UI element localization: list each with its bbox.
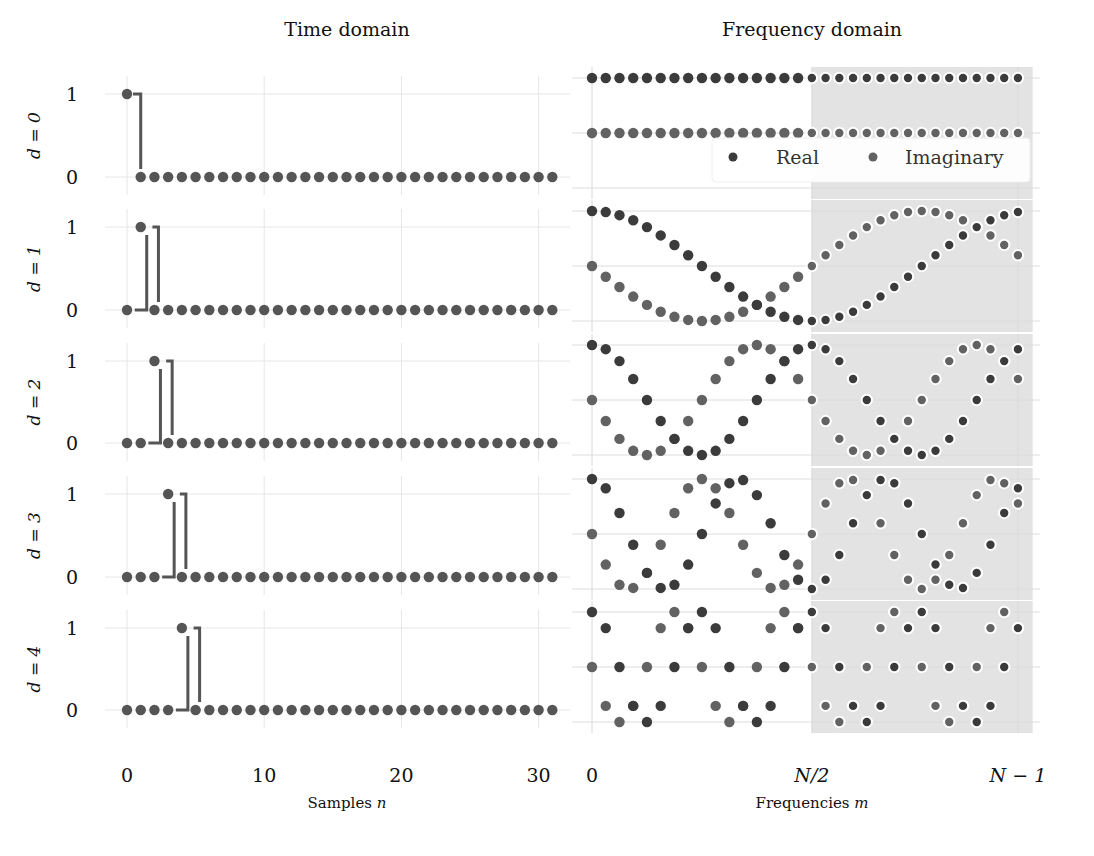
imaginary-point [985,128,995,138]
imaginary-point [587,128,597,138]
imaginary-point [958,128,968,138]
time-sample-marker [382,572,392,582]
imaginary-point [724,717,734,727]
imaginary-point [875,518,885,528]
real-point [779,356,789,366]
time-sample-marker [300,438,310,448]
real-point [944,662,954,672]
real-point [683,73,693,83]
time-sample-marker [424,172,434,182]
real-point [903,272,913,282]
real-point [875,73,885,83]
imaginary-point [807,662,817,672]
real-point [628,540,638,550]
imaginary-point [724,508,734,518]
imaginary-point [1013,250,1023,260]
imaginary-point [972,490,982,500]
real-point [972,568,982,578]
time-sample-marker [314,572,324,582]
time-sample-marker [218,705,228,715]
time-sample-marker [506,438,516,448]
imaginary-point [972,340,982,350]
imaginary-point [875,128,885,138]
time-sample-marker [533,705,543,715]
real-point [738,73,748,83]
y-tick-0: 0 [66,432,78,454]
imaginary-point [765,128,775,138]
imaginary-point [642,662,652,672]
real-point [710,272,720,282]
real-point [765,701,775,711]
real-point [944,580,954,590]
real-point [862,717,872,727]
real-point [862,73,872,83]
real-point [752,490,762,500]
real-point [958,583,968,593]
time-sample-marker [437,438,447,448]
time-sample-marker [355,438,365,448]
time-sample-marker [286,172,296,182]
real-legend-marker-icon [729,153,738,162]
imaginary-point [669,607,679,617]
time-sample-marker [355,705,365,715]
imaginary-point [820,128,830,138]
real-point [972,222,982,232]
real-point [738,416,748,426]
imaginary-point [697,662,707,672]
real-point [930,250,940,260]
imaginary-point [944,717,954,727]
imaginary-point [738,307,748,317]
imaginary-point [765,583,775,593]
time-sample-marker [122,89,132,99]
y-tick-1: 1 [66,350,78,372]
real-point [944,240,954,250]
time-sample-marker [451,305,461,315]
real-point [738,701,748,711]
time-sample-marker [355,172,365,182]
x-tick: N/2 [793,764,829,786]
imaginary-point [710,374,720,384]
imaginary-point [972,662,982,672]
real-point [683,559,693,569]
real-point [587,206,597,216]
time-sample-marker [190,572,200,582]
real-point [930,73,940,83]
imaginary-point [765,344,775,354]
time-sample-marker [328,172,338,182]
time-sample-marker [520,172,530,182]
imaginary-point [656,128,666,138]
real-point [862,395,872,405]
row-label-d2: d = 2 [24,379,44,426]
imaginary-point [807,395,817,405]
time-domain-title: Time domain [284,18,409,40]
time-sample-marker [232,305,242,315]
real-point [985,73,995,83]
real-point [972,73,982,83]
imaginary-point [752,340,762,350]
time-sample-marker [382,305,392,315]
imaginary-point [848,230,858,240]
time-sample-marker [218,172,228,182]
time-sample-marker [314,705,324,715]
imaginary-point [944,210,954,220]
real-point [587,474,597,484]
time-sample-marker [163,489,173,499]
legend-label: Imaginary [905,146,1004,168]
time-sample-marker [492,172,502,182]
real-point [656,416,666,426]
real-point [669,240,679,250]
real-point [944,434,954,444]
real-point [834,662,844,672]
real-point [587,607,597,617]
time-sample-marker [136,705,146,715]
time-sample-marker [259,172,269,182]
real-point [779,550,789,560]
time-sample-marker [369,438,379,448]
imaginary-point [820,498,830,508]
real-point [656,583,666,593]
real-point [683,623,693,633]
time-sample-marker [396,438,406,448]
time-sample-marker [533,172,543,182]
time-sample-marker [204,305,214,315]
imaginary-point [930,128,940,138]
